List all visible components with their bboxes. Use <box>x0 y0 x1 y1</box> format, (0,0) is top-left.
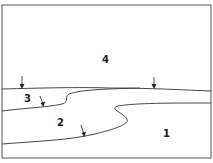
cross-section-diagram: 4 3 2 1 <box>0 0 213 163</box>
unit-2-label: 2 <box>57 117 64 128</box>
unit-4-label: 4 <box>102 54 109 65</box>
diagram-frame <box>2 5 211 158</box>
unit-3-label: 3 <box>24 93 31 104</box>
unit-1-label: 1 <box>163 128 170 139</box>
